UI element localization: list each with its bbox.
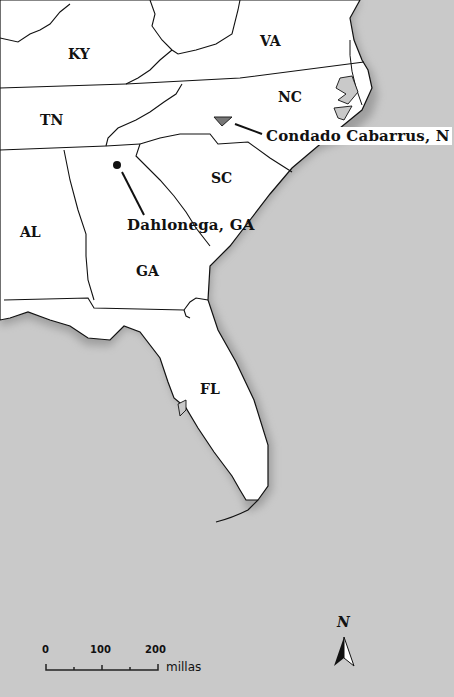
place-label-dahlonega: Dahlonega, GA bbox=[125, 216, 257, 234]
state-label-sc: SC bbox=[211, 170, 232, 186]
dahlonega-dot-marker bbox=[113, 161, 121, 169]
scale-tick-100: 100 bbox=[90, 644, 111, 655]
state-label-tn: TN bbox=[40, 112, 63, 128]
state-label-fl: FL bbox=[200, 381, 220, 397]
state-label-va: VA bbox=[260, 33, 281, 49]
state-label-ky: KY bbox=[68, 46, 90, 62]
state-label-nc: NC bbox=[278, 89, 302, 105]
place-label-cabarrus: Condado Cabarrus, N bbox=[264, 127, 452, 145]
scale-units: millas bbox=[166, 660, 201, 674]
state-label-al: AL bbox=[20, 224, 41, 240]
scale-tick-0: 0 bbox=[42, 644, 49, 655]
north-label: N bbox=[337, 614, 350, 630]
state-label-ga: GA bbox=[136, 263, 159, 279]
map-canvas bbox=[0, 0, 454, 697]
scale-tick-200: 200 bbox=[145, 644, 166, 655]
